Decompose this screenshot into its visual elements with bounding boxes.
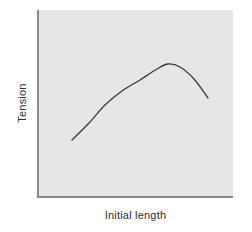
y-axis-title: Tension [16, 38, 28, 168]
x-axis-title: Initial length [38, 209, 233, 221]
x-axis-line [37, 196, 233, 198]
y-axis-line [37, 10, 39, 198]
plot-area-panel [38, 10, 233, 197]
figure-container: Tension Initial length [0, 0, 252, 232]
